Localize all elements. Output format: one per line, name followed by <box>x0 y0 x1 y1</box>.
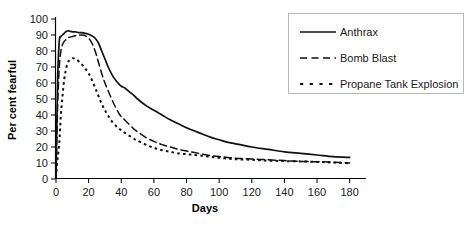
x-tick-label: 180 <box>341 186 359 198</box>
x-tick-label: 160 <box>308 186 326 198</box>
y-tick-label: 50 <box>36 93 48 105</box>
y-tick-label: 80 <box>36 45 48 57</box>
y-tick-label: 20 <box>36 141 48 153</box>
y-tick-label: 30 <box>36 125 48 137</box>
x-axis-title: Days <box>192 202 218 214</box>
y-tick-label: 10 <box>36 157 48 169</box>
x-tick-label: 100 <box>210 186 228 198</box>
legend-label: Bomb Blast <box>340 52 396 64</box>
y-tick-label: 60 <box>36 77 48 89</box>
y-axis-title: Per cent fearful <box>6 60 18 140</box>
x-tick-label: 0 <box>53 186 59 198</box>
y-tick-label: 70 <box>36 61 48 73</box>
y-tick-label: 0 <box>42 173 48 185</box>
x-tick-label: 20 <box>83 186 95 198</box>
fear-decay-line-chart: Per cent fearful 0102030405060708090100 … <box>0 0 469 228</box>
y-tick-label: 40 <box>36 109 48 121</box>
legend-label: Anthrax <box>340 26 378 38</box>
x-tick-label: 120 <box>243 186 261 198</box>
y-tick-label: 100 <box>30 13 48 25</box>
x-tick-label: 80 <box>180 186 192 198</box>
x-tick-label: 40 <box>115 186 127 198</box>
y-tick-label: 90 <box>36 29 48 41</box>
x-tick-label: 60 <box>148 186 160 198</box>
x-tick-label: 140 <box>275 186 293 198</box>
chart-canvas: Per cent fearful 0102030405060708090100 … <box>0 0 469 228</box>
legend-label: Propane Tank Explosion <box>340 78 458 90</box>
chart-legend: AnthraxBomb BlastPropane Tank Explosion <box>289 14 464 94</box>
